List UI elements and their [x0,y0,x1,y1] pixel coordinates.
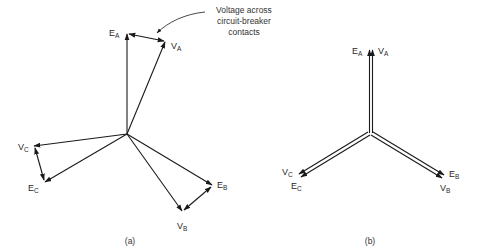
phasor-EB-a [127,134,212,185]
label-VB-a: VB [177,221,187,232]
label-VC-a: VC [18,142,29,153]
panel-b-labels: EA VA EB VB VC EC (b) [282,46,459,246]
annotation-line-3: contacts [228,27,260,37]
phasor-EC-b [301,135,370,177]
caption-b: (b) [365,236,376,246]
label-EB-b: EB [449,169,459,180]
annotation-leader [157,12,205,33]
annotation-line-2: circuit-breaker [217,16,271,26]
label-EB-a: EB [217,180,227,191]
label-VC-b: VC [282,167,293,178]
phasor-VC-b [299,132,368,174]
contact-voltage-A [129,34,164,41]
label-VB-b: VB [440,183,450,194]
phasor-VA-a [127,42,165,134]
label-EA-b: EA [352,46,363,57]
panel-a-labels: EA VA VC EC EB VB Voltage across circuit… [18,5,272,246]
phasor-VB-a [127,134,182,211]
phasor-EB-b [373,132,444,175]
phasor-VB-b [371,135,442,178]
label-VA-b: VA [378,46,389,57]
caption-a: (a) [125,236,136,246]
panel-a [34,12,212,211]
annotation-line-1: Voltage across [216,5,272,15]
panel-b [299,50,444,178]
label-EA-a: EA [109,28,120,39]
phasor-EC-a [45,134,127,182]
contact-voltage-C [35,148,44,180]
label-VA-a: VA [171,41,182,52]
label-EC-a: EC [28,183,39,194]
contact-voltage-B [184,187,211,210]
phasor-VC-a [34,134,127,146]
label-EC-b: EC [291,181,302,192]
phasor-figure: EA VA VC EC EB VB Voltage across circuit… [0,0,478,252]
